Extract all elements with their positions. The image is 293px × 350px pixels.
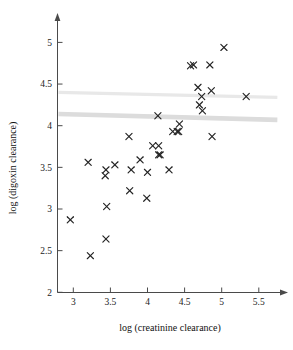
data-point-marker [209, 133, 215, 139]
y-tick-label: 4 [47, 121, 52, 131]
reference-band-lines [58, 92, 277, 119]
y-tick-label: 3.5 [40, 163, 52, 173]
data-point-marker [176, 121, 182, 127]
x-tick-label: 4 [145, 297, 150, 307]
x-axis-title: log (creatinine clearance) [119, 322, 221, 334]
axes-group [55, 13, 288, 295]
data-point-marker [85, 159, 91, 165]
data-point-marker [150, 143, 156, 149]
plot-canvas: 33.544.555.5 22.533.544.55 log (creatini… [0, 0, 293, 350]
data-point-marker [67, 217, 73, 223]
x-tick-label: 4.5 [179, 297, 191, 307]
data-point-marker [104, 203, 110, 209]
x-tick-label: 5.5 [253, 297, 265, 307]
scatter-plot-figure: 33.544.555.5 22.533.544.55 log (creatini… [0, 0, 293, 350]
data-point-marker [87, 253, 93, 259]
y-axis-title: log (digoxin clearance) [7, 122, 19, 215]
data-point-marker [156, 143, 162, 149]
data-point-marker [137, 157, 143, 163]
y-tick-label: 5 [47, 38, 52, 48]
data-point-marker [127, 188, 133, 194]
data-point-marker [126, 133, 132, 139]
y-tick-label: 3 [47, 204, 52, 214]
y-axis-ticks: 22.533.544.55 [40, 38, 62, 298]
data-point-marker [208, 88, 214, 94]
data-point-marker [112, 162, 118, 168]
x-tick-label: 5 [219, 297, 224, 307]
y-tick-label: 2 [47, 288, 52, 298]
data-point-marker [103, 236, 109, 242]
data-point-marker [221, 44, 227, 50]
data-point-marker [144, 169, 150, 175]
x-axis-ticks: 33.544.555.5 [71, 288, 265, 308]
x-axis-arrowhead [280, 290, 288, 296]
x-tick-label: 3.5 [104, 297, 116, 307]
reference-line-lower-band [58, 114, 277, 120]
y-axis-arrowhead [55, 13, 61, 21]
data-point-marker [102, 173, 108, 179]
data-point-marker [166, 167, 172, 173]
x-tick-label: 3 [71, 297, 76, 307]
data-points-group [67, 44, 249, 258]
data-point-marker [144, 195, 150, 201]
data-point-marker [128, 167, 134, 173]
data-point-marker [195, 84, 201, 90]
y-tick-label: 4.5 [40, 79, 52, 89]
y-tick-label: 2.5 [40, 246, 52, 256]
data-point-marker [103, 167, 109, 173]
data-point-marker [207, 62, 213, 68]
